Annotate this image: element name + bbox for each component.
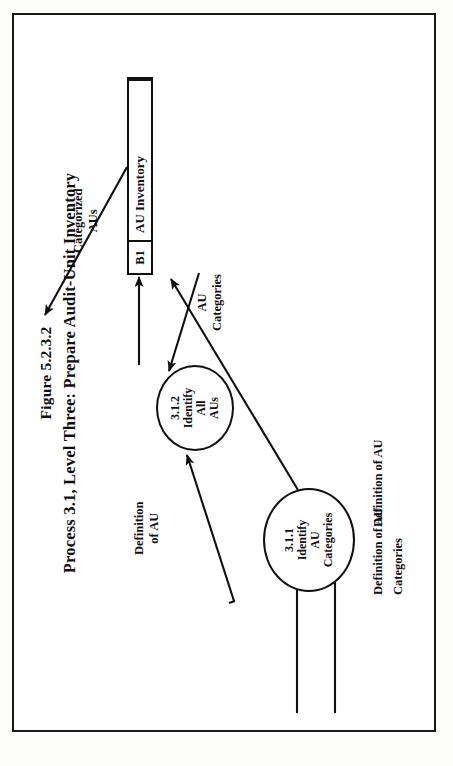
flow-label-categorized-aus-line-1: AUs [86,188,101,253]
flow-label-categorized-aus-line-0: Categorized [71,188,86,253]
datastore-au-inventory[interactable]: B1 AU Inventory [127,79,153,275]
process-312-line-2: All [195,400,208,415]
process-bubble-3-1-2[interactable]: 3.1.2 Identify All AUs [156,365,234,451]
flow-label-au-categories-line-0: AU [195,274,210,331]
page-border-frame: Figure 5.2.3.2 Process 3.1, Level Three:… [12,13,436,732]
process-311-line-2: AU [309,531,322,548]
flow-label-definition-of-au-in: Definition of AU [371,439,386,527]
datastore-open-end [127,77,153,81]
datastore-name-label: AU Inventory [129,81,151,240]
datastore-id-label: B1 [129,240,151,273]
process-311-line-3: Categories [322,512,335,567]
flow-label-au-categories: AU Categories [195,274,224,331]
process-bubble-3-1-1[interactable]: 3.1.1 Identify AU Categories [263,488,355,592]
flow-label-categorized-aus: Categorized AUs [71,188,100,253]
flow-arrow-layer [19,23,429,723]
flow-definition-of-au-to-312 [187,455,235,603]
rotated-figure-canvas: Figure 5.2.3.2 Process 3.1, Level Three:… [19,23,429,723]
process-312-line-3: AUs [208,397,221,419]
flow-label-definition-of-au-line-1: of AU [147,501,162,554]
flow-label-definition-of-au: Definition of AU [132,501,161,554]
flow-label-definition-of-au-line-0: Definition [132,501,147,554]
flow-label-au-categories-line-1: Categories [210,274,225,331]
scanned-page: Figure 5.2.3.2 Process 3.1, Level Three:… [0,0,453,766]
flow-label-definition-of-au-categories-line-1: Categories [391,538,406,595]
